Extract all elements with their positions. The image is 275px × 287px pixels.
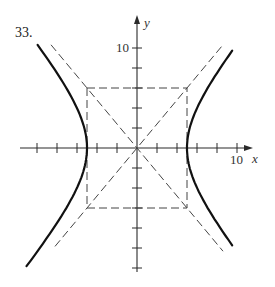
asymptote-positive xyxy=(55,45,223,247)
plot-area: x y 10 10 xyxy=(0,0,275,287)
y-tick-label-10: 10 xyxy=(116,40,129,55)
y-axis-label: y xyxy=(142,15,150,30)
y-axis-arrow-icon xyxy=(134,15,140,24)
hyperbola-figure: 33. x y 10 10 xyxy=(0,0,275,287)
hyperbola-left-branch xyxy=(27,45,88,266)
problem-number: 33. xyxy=(15,25,33,41)
hyperbola-branches xyxy=(27,45,233,266)
axes xyxy=(20,15,253,272)
x-tick-label-10: 10 xyxy=(230,152,243,167)
x-axis-label: x xyxy=(251,151,258,166)
